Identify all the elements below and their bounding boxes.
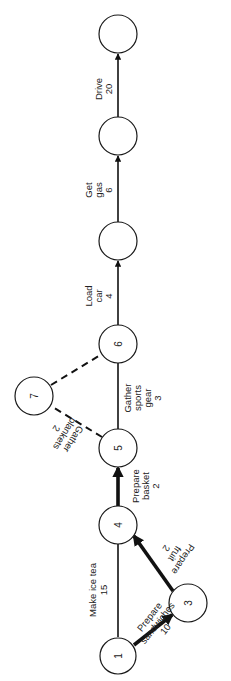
node-4: 4 [99,506,137,544]
label-load-car: Load car 4 [83,285,114,306]
node-1: 1 [100,638,136,674]
svg-text:2: 2 [50,423,62,433]
node-5-label: 5 [113,445,124,451]
label-drive: Drive 20 [93,78,114,100]
label-prepare-basket: Prepare basket 2 [130,469,161,503]
node-5: 5 [99,429,137,467]
svg-text:15: 15 [98,585,109,596]
node-3-label: 3 [183,600,194,606]
node-3: 3 [169,584,207,622]
node-7-label: 7 [29,393,40,399]
label-get-gas: Get gas 6 [83,182,114,198]
node-8 [99,222,137,260]
edge-dummy-7-6 [51,354,102,385]
node-10 [99,15,137,53]
label-gather-blankets: Gather blankets 2 [42,411,87,458]
svg-text:3: 3 [152,395,163,400]
node-6: 6 [99,325,137,363]
svg-text:20: 20 [103,84,114,95]
network-diagram: 1 3 4 5 6 7 Make ice tea 15 Prepare sand… [0,0,231,681]
label-make-ice-tea: Make ice tea 15 [87,562,109,617]
svg-text:2: 2 [150,483,161,488]
node-7: 7 [15,377,53,415]
node-4-label: 4 [113,522,124,528]
node-6-label: 6 [113,341,124,347]
node-1-label: 1 [113,653,124,659]
node-9 [99,117,137,155]
svg-text:6: 6 [103,187,114,192]
edge-prepare-fruit [134,536,173,591]
svg-text:2: 2 [160,543,172,553]
svg-text:Make ice tea: Make ice tea [87,562,98,617]
label-gather-sports-gear: Gather sports gear 3 [122,383,163,412]
svg-text:4: 4 [103,293,114,298]
